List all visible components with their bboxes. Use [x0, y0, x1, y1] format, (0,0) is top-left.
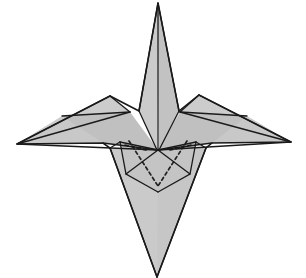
origami-figure [0, 0, 306, 278]
origami-diagram-svg [0, 0, 306, 278]
